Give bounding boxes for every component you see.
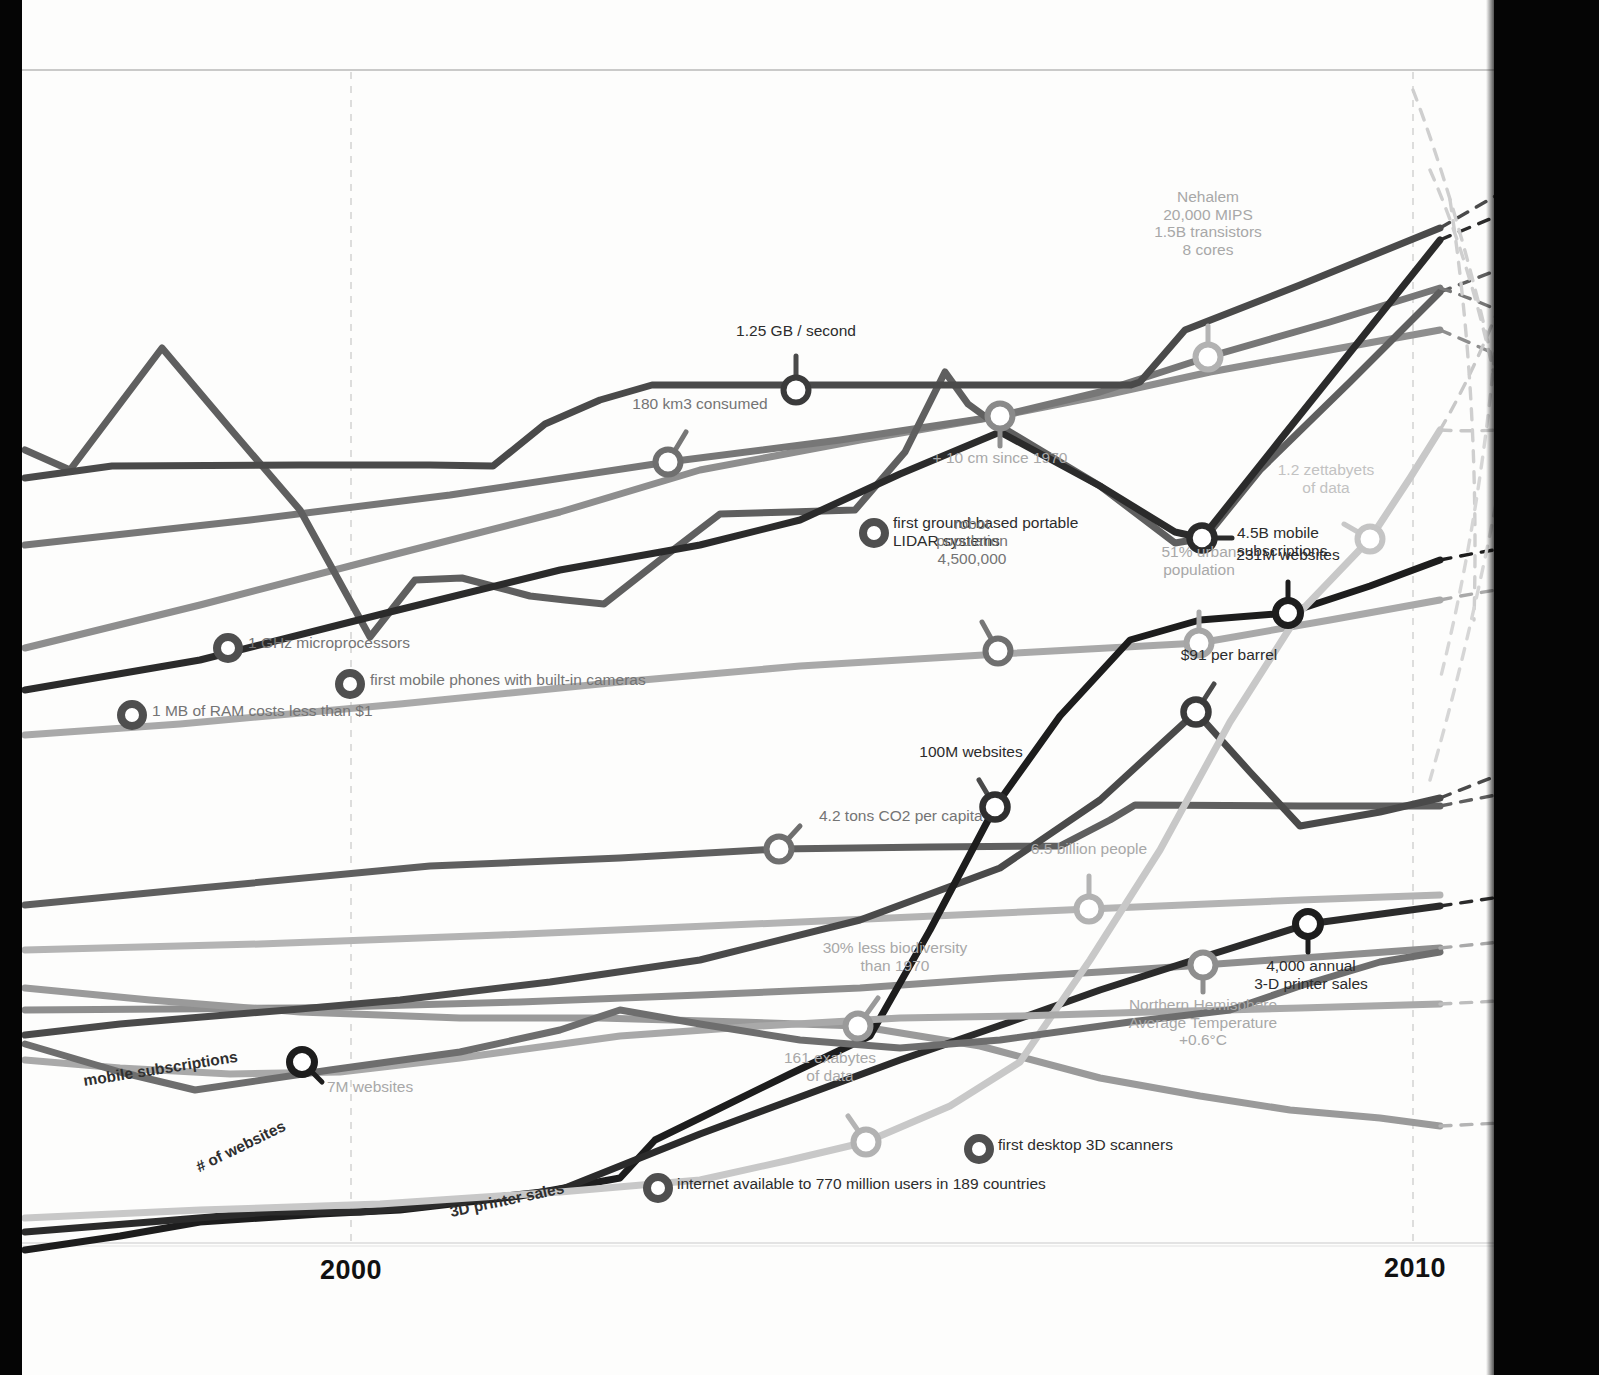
annotation-northern-temperature: Northern Hemisphere Average Temperature …: [1088, 996, 1318, 1049]
marker-nehalem: [1196, 345, 1221, 370]
trend-lines-chart: [0, 0, 1599, 1375]
marker-exabytes: [854, 1130, 879, 1155]
marker-water-consumed: [656, 450, 681, 475]
bullet-ram-cost: [121, 704, 143, 726]
bullet-internet-users: [647, 1177, 669, 1199]
page-edge-right: [1494, 0, 1599, 1375]
annotation-websites-100m: 100M websites: [871, 743, 1071, 761]
marker-7m-websites: [290, 1050, 315, 1075]
annotation-ghz-microprocessors: 1 GHz microprocessors: [248, 634, 508, 652]
annotation-water-consumed: 180 km3 consumed: [590, 395, 810, 413]
marker-biodiversity: [846, 1014, 871, 1039]
annotation-co2-per-capita: 4.2 tons CO2 per capita: [819, 807, 1079, 825]
annotation-websites-7m: 7M websites: [327, 1078, 507, 1096]
page-edge-left: [0, 0, 22, 1375]
annotation-exabytes-of-data: 161 exabytes of data: [740, 1049, 920, 1084]
marker-sea-level: [988, 404, 1013, 429]
annotation-robot-population: robot population 4,500,000: [882, 515, 1062, 568]
annotation-nehalem-processor: Nehalem 20,000 MIPS 1.5B transistors 8 c…: [1098, 188, 1318, 258]
marker-3d-printer-sales: [1296, 912, 1321, 937]
marker-231m-websites: [1276, 601, 1301, 626]
annotation-zettabytes-of-data: 1.2 zettabyets of data: [1226, 461, 1426, 496]
series-world-population: [25, 895, 1440, 950]
bullet-mobile-phones-cameras: [339, 673, 361, 695]
annotation-biodiversity-loss: 30% less biodiversity than 1970: [785, 939, 1005, 974]
annotation-oil-price: $91 per barrel: [1129, 646, 1329, 664]
annotation-ram-cost: 1 MB of RAM costs less than $1: [152, 702, 432, 720]
annotation-internet-users: internet available to 770 million users …: [677, 1175, 1097, 1193]
marker-robot-population: [986, 639, 1011, 664]
annotation-sea-level-rise: + 10 cm since 1970: [890, 449, 1110, 467]
infographic-page: 1 GHz microprocessorsfirst mobile phones…: [0, 0, 1599, 1375]
annotation-world-population: 6.5 billion people: [984, 840, 1194, 858]
annotation-mobile-phones-cameras: first mobile phones with built-in camera…: [370, 671, 700, 689]
marker-co2-per-capita: [767, 837, 792, 862]
annotation-desktop-3d-scanners: first desktop 3D scanners: [998, 1136, 1228, 1154]
marker-oil-price: [1184, 700, 1209, 725]
bullet-3d-scanners: [968, 1138, 990, 1160]
axis-label-2010: 2010: [1384, 1253, 1446, 1284]
annotation-gb-per-second: 1.25 GB / second: [686, 322, 906, 340]
bullet-ghz-microprocessors: [217, 637, 239, 659]
annotation-printer-sales-value: 4,000 annual 3-D printer sales: [1206, 957, 1416, 992]
series-co2-emissions: [25, 805, 1440, 905]
axis-label-2000: 2000: [320, 1255, 382, 1286]
marker-world-population: [1077, 897, 1102, 922]
annotation-websites-231m: 231M websites: [1183, 546, 1393, 564]
